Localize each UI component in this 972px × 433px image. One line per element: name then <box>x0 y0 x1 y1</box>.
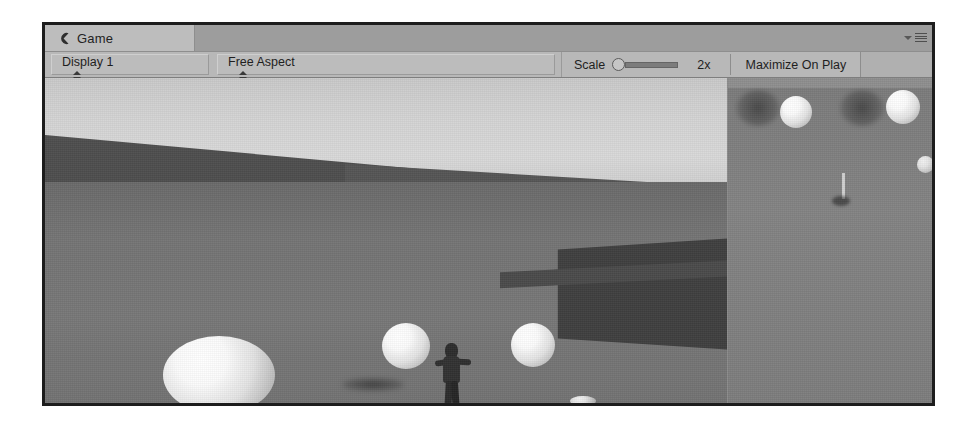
game-view-toolbar: Display 1 Free Aspect Scale 2x <box>45 52 932 78</box>
sphere-large-left <box>163 336 275 405</box>
toolbar-tail <box>860 52 932 77</box>
panel-menu-group[interactable] <box>904 33 927 42</box>
tab-bar-filler <box>195 25 932 51</box>
main-camera-render <box>45 78 727 405</box>
blob-dark-a <box>736 90 780 126</box>
maximize-on-play-button[interactable]: Maximize On Play <box>730 54 860 75</box>
secondary-camera-render <box>727 78 932 405</box>
character-torso <box>443 356 460 383</box>
blob-dark-b <box>840 90 884 126</box>
scale-control-group: Scale 2x <box>561 52 720 77</box>
ground-highlight <box>570 396 596 405</box>
game-controller-icon <box>57 32 70 45</box>
hamburger-menu-icon[interactable] <box>915 33 927 42</box>
display-dropdown-value: Display 1 <box>62 55 113 69</box>
sphere-top-b <box>886 90 920 124</box>
player-character <box>435 343 473 405</box>
sphere-top-a <box>780 96 812 128</box>
panel-tab-bar: Game <box>45 25 932 52</box>
aspect-ratio-dropdown[interactable]: Free Aspect <box>217 54 555 75</box>
scale-label: Scale <box>574 58 605 72</box>
aspect-dropdown-value: Free Aspect <box>228 55 295 69</box>
sphere-mid-right <box>511 323 555 367</box>
pole-base <box>832 196 850 206</box>
shadow-mid <box>342 378 404 391</box>
screenshot-root: Game Display 1 Free Aspect <box>0 0 972 433</box>
character-leg-right <box>451 381 460 405</box>
scale-slider-track[interactable] <box>625 62 678 68</box>
sphere-small <box>917 156 932 173</box>
maximize-on-play-label: Maximize On Play <box>745 58 846 72</box>
sphere-mid-left <box>382 323 430 369</box>
tab-game[interactable]: Game <box>45 25 195 51</box>
tab-label: Game <box>77 31 113 46</box>
game-panel-window: Game Display 1 Free Aspect <box>42 22 935 406</box>
secondary-camera-top-strip <box>728 78 932 88</box>
center-wall <box>558 238 727 350</box>
scale-slider-handle[interactable] <box>612 58 625 71</box>
scale-value: 2x <box>697 58 710 72</box>
game-viewport[interactable] <box>45 78 932 405</box>
chevron-down-icon[interactable] <box>904 36 912 40</box>
display-dropdown[interactable]: Display 1 <box>51 54 209 75</box>
scale-slider[interactable] <box>612 58 690 72</box>
